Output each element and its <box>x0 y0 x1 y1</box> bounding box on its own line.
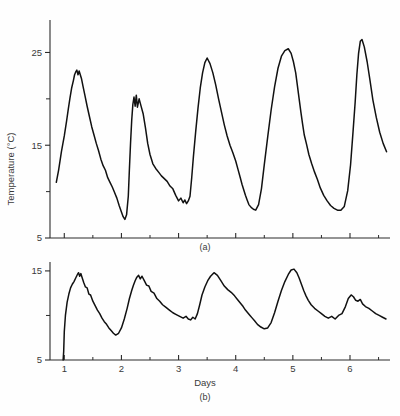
x-tick-label: 5 <box>290 363 295 374</box>
x-tick-label: 3 <box>176 363 181 374</box>
x-tick-label: 4 <box>233 363 238 374</box>
y-tick-label: 25 <box>31 47 42 58</box>
panel-b-label: (b) <box>200 392 211 402</box>
panel-a-label: (a) <box>200 242 211 252</box>
y-tick-label: 15 <box>31 140 42 151</box>
y-tick-label: 5 <box>37 232 42 243</box>
x-axis-title: Days <box>194 377 216 388</box>
y-axis-title: Temperature (°C) <box>5 133 16 206</box>
x-tick-label: 6 <box>347 363 352 374</box>
y-tick-label: 15 <box>31 265 42 276</box>
figure-background <box>0 0 400 416</box>
x-tick-label: 2 <box>119 363 124 374</box>
temperature-time-series-figure: 51525 (a) 515 123456 Days (b) Temperatur… <box>0 0 400 416</box>
x-tick-label: 1 <box>62 363 67 374</box>
figure-container: 51525 (a) 515 123456 Days (b) Temperatur… <box>0 0 400 416</box>
y-tick-label: 5 <box>37 354 42 365</box>
